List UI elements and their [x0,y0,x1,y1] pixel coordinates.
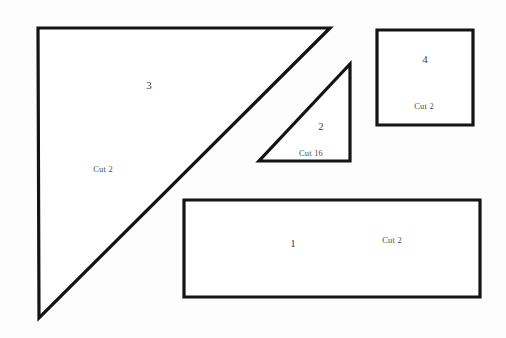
pattern-shapes-canvas [0,0,506,338]
shape-rectangle-piece-1 [184,200,480,297]
shape-square-piece-4 [377,30,473,125]
pattern-diagram-sheet: 3 Cut 2 2 Cut 16 4 Cut 2 1 Cut 2 [0,0,506,338]
